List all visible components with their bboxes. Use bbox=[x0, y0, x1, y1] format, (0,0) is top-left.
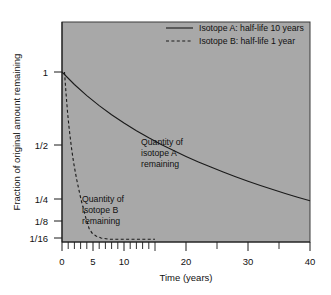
annotation-b-line3: remaining bbox=[82, 216, 120, 226]
legend-label-isotope-a: Isotope A: half-life 10 years bbox=[199, 23, 304, 33]
annotation-a-line1: Quantity of bbox=[141, 137, 184, 147]
x-tick-label-0: 0 bbox=[59, 256, 64, 267]
x-tick-label-40: 40 bbox=[305, 256, 316, 267]
y-tick-label-one-half: 1/2 bbox=[35, 140, 48, 151]
annotation-isotope-b: Quantity of isotope B remaining bbox=[82, 194, 125, 226]
x-tick-label-20: 20 bbox=[181, 256, 192, 267]
y-tick-label-one-sixteenth: 1/16 bbox=[30, 233, 49, 244]
svg-text:1/16: 1/16 bbox=[30, 233, 49, 244]
x-tick-marks-minor bbox=[68, 242, 279, 251]
svg-text:1/8: 1/8 bbox=[35, 216, 48, 227]
half-life-decay-chart: 1 1/2 1/4 1/8 1/16 Fraction of original … bbox=[0, 0, 331, 295]
x-axis-title: Time (years) bbox=[160, 272, 213, 283]
chart-canvas: 1 1/2 1/4 1/8 1/16 Fraction of original … bbox=[0, 0, 331, 295]
annotation-a-line3: remaining bbox=[141, 159, 179, 169]
y-tick-label-one-quarter: 1/4 bbox=[35, 194, 48, 205]
y-tick-label-one-eighth: 1/8 bbox=[35, 216, 48, 227]
annotation-b-line1: Quantity of bbox=[82, 194, 125, 204]
y-tick-marks bbox=[54, 72, 62, 238]
y-tick-label-1: 1 bbox=[43, 67, 48, 78]
x-tick-label-30: 30 bbox=[243, 256, 254, 267]
annotation-a-line2: isotope A bbox=[141, 148, 177, 158]
y-axis-title: Fraction of original amount remaining bbox=[11, 54, 22, 211]
x-tick-label-10: 10 bbox=[119, 256, 130, 267]
svg-text:1/2: 1/2 bbox=[35, 140, 48, 151]
legend-label-isotope-b: Isotope B: half-life 1 year bbox=[199, 36, 295, 46]
annotation-b-line2: isotope B bbox=[82, 205, 118, 215]
svg-text:1/4: 1/4 bbox=[35, 194, 48, 205]
x-tick-label-5: 5 bbox=[90, 256, 95, 267]
